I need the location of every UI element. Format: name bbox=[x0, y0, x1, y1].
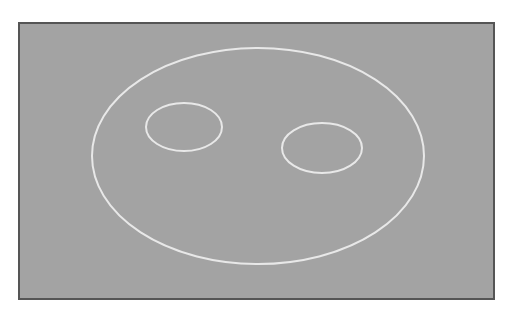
right-eye bbox=[282, 123, 362, 173]
left-eye bbox=[146, 103, 222, 151]
face-drawing bbox=[0, 0, 514, 314]
face-outline bbox=[92, 48, 424, 264]
